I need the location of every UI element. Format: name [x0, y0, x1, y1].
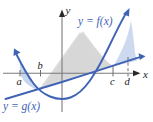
label-tick-a: a — [17, 76, 22, 87]
curve-g-arrow — [139, 53, 146, 60]
label-y-axis: y — [65, 4, 71, 16]
label-f-curve: y = f(x) — [77, 15, 113, 28]
label-tick-b: b — [38, 60, 43, 71]
label-tick-d: d — [125, 76, 131, 87]
figure-canvas: y = f(x) y = g(x) y x a b c d — [0, 0, 153, 122]
label-tick-c: c — [110, 76, 115, 87]
label-x-axis: x — [142, 68, 148, 80]
x-axis-arrow — [133, 70, 141, 76]
math-figure: y = f(x) y = g(x) y x a b c d — [0, 0, 153, 122]
label-g-curve: y = g(x) — [2, 100, 40, 113]
y-axis-arrow — [59, 10, 65, 18]
